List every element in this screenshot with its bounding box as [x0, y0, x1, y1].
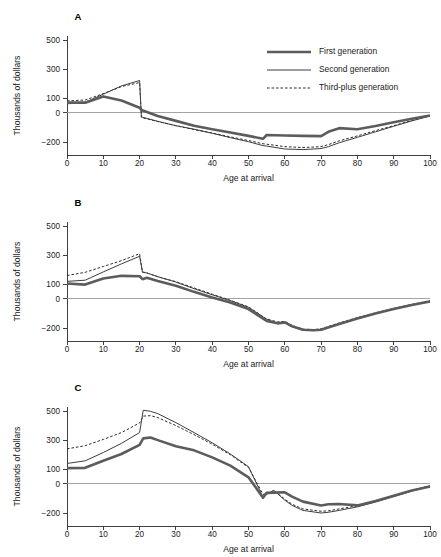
- y-axis-title: Thousands of dollars: [12, 56, 22, 136]
- y-tick-label: 0: [55, 480, 60, 489]
- legend-label-second-generation: Second generation: [319, 64, 390, 74]
- x-tick-label: 20: [135, 159, 145, 168]
- x-tick-label: 30: [171, 345, 181, 354]
- x-tick-label: 50: [244, 530, 254, 539]
- x-tick-label: 10: [99, 345, 109, 354]
- x-tick-label: 0: [65, 345, 70, 354]
- series-line-second-generation: [67, 410, 430, 513]
- series-line-first-generation: [67, 438, 430, 506]
- x-tick-label: 20: [135, 345, 145, 354]
- x-tick-label: 30: [171, 530, 181, 539]
- series-line-third-plus-generation: [67, 254, 430, 330]
- x-tick-label: 80: [353, 345, 363, 354]
- x-tick-label: 100: [423, 159, 437, 168]
- y-tick-label: 500: [46, 407, 60, 416]
- x-axis-title: Age at arrival: [223, 544, 274, 554]
- y-tick-label: 100: [46, 280, 60, 289]
- series-line-second-generation: [67, 256, 430, 330]
- x-tick-label: 40: [208, 159, 218, 168]
- x-tick-label: 30: [171, 159, 181, 168]
- x-tick-label: 80: [353, 159, 363, 168]
- y-tick-label: 300: [46, 436, 60, 445]
- y-tick-label: 300: [46, 251, 60, 260]
- x-tick-label: 50: [244, 159, 254, 168]
- y-tick-label: 100: [46, 465, 60, 474]
- y-tick-label: 300: [46, 65, 60, 74]
- chart-panel-c: C−20001003005000102030405060708090100Age…: [0, 371, 441, 557]
- y-tick-label: 0: [55, 109, 60, 118]
- y-tick-label: −200: [42, 324, 61, 333]
- series-line-third-plus-generation: [67, 83, 430, 148]
- legend-label-first-generation: First generation: [319, 46, 378, 56]
- y-tick-label: 500: [46, 36, 60, 45]
- x-tick-label: 70: [317, 159, 327, 168]
- y-axis-title: Thousands of dollars: [12, 427, 22, 507]
- y-axis-title: Thousands of dollars: [12, 242, 22, 322]
- chart-panel-a: A−20001003005000102030405060708090100Age…: [0, 0, 441, 186]
- x-tick-label: 0: [65, 530, 70, 539]
- series-line-first-generation: [67, 97, 430, 139]
- x-tick-label: 100: [423, 345, 437, 354]
- x-tick-label: 50: [244, 345, 254, 354]
- y-tick-label: 0: [55, 295, 60, 304]
- y-tick-label: 100: [46, 94, 60, 103]
- x-tick-label: 90: [389, 530, 399, 539]
- x-axis-title: Age at arrival: [223, 173, 274, 183]
- series-line-first-generation: [67, 276, 430, 330]
- series-line-third-plus-generation: [67, 416, 430, 512]
- y-tick-label: −200: [42, 509, 61, 518]
- x-tick-label: 60: [280, 530, 290, 539]
- x-tick-label: 90: [389, 159, 399, 168]
- y-tick-label: 500: [46, 222, 60, 231]
- x-tick-label: 100: [423, 530, 437, 539]
- x-tick-label: 90: [389, 345, 399, 354]
- x-tick-label: 80: [353, 530, 363, 539]
- x-tick-label: 60: [280, 159, 290, 168]
- panel-letter: B: [75, 197, 82, 208]
- x-tick-label: 40: [208, 345, 218, 354]
- x-tick-label: 20: [135, 530, 145, 539]
- x-tick-label: 10: [99, 159, 109, 168]
- x-tick-label: 0: [65, 159, 70, 168]
- chart-panel-b: B−20001003005000102030405060708090100Age…: [0, 186, 441, 372]
- legend-label-third-plus-generation: Third-plus generation: [319, 82, 398, 92]
- x-tick-label: 40: [208, 530, 218, 539]
- x-tick-label: 70: [317, 530, 327, 539]
- x-tick-label: 70: [317, 345, 327, 354]
- x-axis-title: Age at arrival: [223, 359, 274, 369]
- y-tick-label: −200: [42, 138, 61, 147]
- panel-letter: C: [75, 382, 82, 393]
- x-tick-label: 10: [99, 530, 109, 539]
- panel-letter: A: [75, 11, 82, 22]
- x-tick-label: 60: [280, 345, 290, 354]
- figure-three-panel-line-chart: A−20001003005000102030405060708090100Age…: [0, 0, 441, 557]
